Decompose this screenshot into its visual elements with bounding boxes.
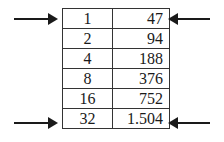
count-cell: 1 [63, 9, 113, 29]
arrow-left-icon [170, 18, 210, 20]
value-cell: 1.504 [113, 109, 170, 129]
table-row: 1 47 [63, 9, 170, 29]
value-cell: 752 [113, 89, 170, 109]
table-row: 32 1.504 [63, 109, 170, 129]
count-cell: 8 [63, 69, 113, 89]
value-cell: 94 [113, 29, 170, 49]
value-cell: 47 [113, 9, 170, 29]
count-cell: 32 [63, 109, 113, 129]
arrow-left-icon [170, 122, 210, 124]
count-cell: 16 [63, 89, 113, 109]
table-row: 4 188 [63, 49, 170, 69]
arrow-right-icon [14, 18, 56, 20]
value-cell: 188 [113, 49, 170, 69]
count-cell: 2 [63, 29, 113, 49]
doubling-table: 1 47 2 94 4 188 8 376 16 752 32 1.504 [62, 8, 170, 129]
table-row: 8 376 [63, 69, 170, 89]
table-row: 2 94 [63, 29, 170, 49]
value-cell: 376 [113, 69, 170, 89]
count-cell: 4 [63, 49, 113, 69]
table-row: 16 752 [63, 89, 170, 109]
arrow-right-icon [14, 122, 56, 124]
